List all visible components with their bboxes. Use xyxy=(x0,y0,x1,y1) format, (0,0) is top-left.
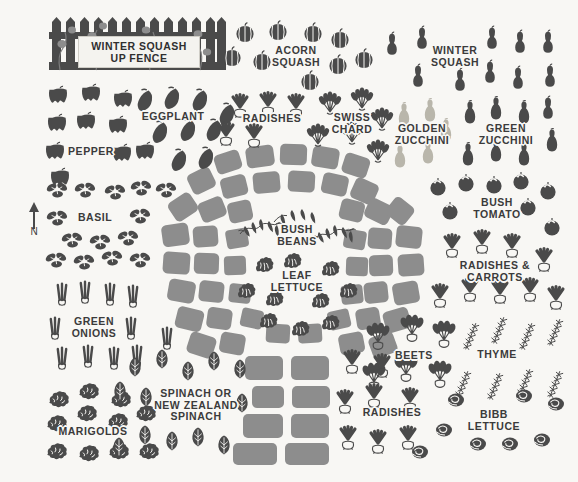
radish-carrot-plants xyxy=(433,231,563,310)
garden-art-layer xyxy=(0,0,578,482)
garden-plan-diagram: N WINTER SQUASH UP FENCE ACORN SQUASHWIN… xyxy=(0,0,578,482)
pepper-plants xyxy=(46,84,154,184)
compass-rose: N xyxy=(22,200,46,244)
stone-path xyxy=(161,144,425,465)
acorn-squash-plants xyxy=(223,21,372,90)
green-zucchini-plants xyxy=(463,97,557,166)
fence-sign: WINTER SQUASH UP FENCE xyxy=(78,36,200,68)
thyme-plants xyxy=(454,316,563,402)
green-onion-plants xyxy=(51,282,171,370)
basil-plants xyxy=(44,179,177,270)
golden-zucchini-plants xyxy=(395,99,451,168)
bush-bean-plants xyxy=(238,209,355,244)
bush-tomato-plants xyxy=(430,172,559,236)
bibb-lettuce-plants xyxy=(412,390,564,459)
compass-north-label: N xyxy=(30,226,37,237)
spinach-plants xyxy=(113,350,247,457)
fence-sign-text: WINTER SQUASH UP FENCE xyxy=(91,40,187,64)
